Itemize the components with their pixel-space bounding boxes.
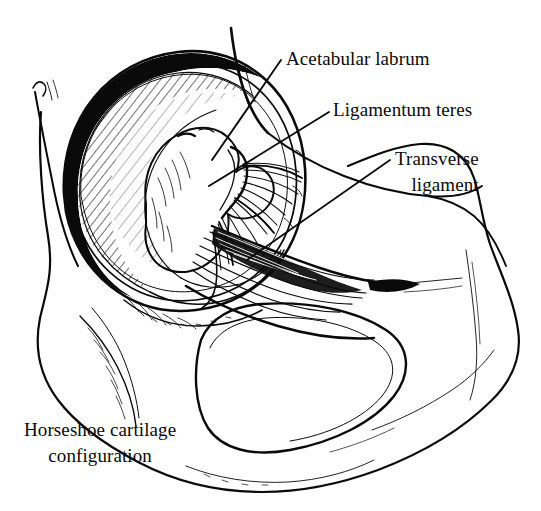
pubic-spur-hatch-1 bbox=[47, 82, 52, 100]
label-acetabular-labrum: Acetabular labrum bbox=[286, 47, 430, 70]
label-horseshoe-cartilage-configuration: Horseshoe cartilageconfiguration bbox=[24, 417, 176, 469]
label-transverse-ligament: Transverseligament bbox=[395, 146, 479, 198]
anatomical-figure: Acetabular labrum Ligamentum teres Trans… bbox=[0, 0, 541, 511]
fossa-shading bbox=[152, 152, 190, 252]
label-ligamentum-teres: Ligamentum teres bbox=[333, 98, 472, 121]
ischial-ridge bbox=[466, 250, 477, 400]
ischial-tuberosity-sweep bbox=[372, 350, 494, 430]
label-horseshoe-line1: Horseshoe cartilage bbox=[24, 419, 176, 440]
transverse-ligament-insertion bbox=[368, 279, 420, 292]
pubic-spur-hatch-2 bbox=[53, 80, 58, 98]
pubic-body-hatching bbox=[88, 328, 125, 419]
superior-ramus-ridge bbox=[231, 28, 268, 133]
ligamentum-teres-stump-back bbox=[220, 150, 235, 210]
labrum-tick-right-2 bbox=[293, 186, 302, 196]
ischial-tuberosity-sweep-2 bbox=[330, 428, 394, 452]
obturator-foramen-outline bbox=[196, 303, 406, 452]
label-transverse-ligament-line2: ligament bbox=[395, 172, 479, 198]
transverse-ligament-band bbox=[212, 228, 362, 293]
label-horseshoe-line2: configuration bbox=[24, 443, 176, 469]
inferior-ramus-line bbox=[186, 460, 374, 482]
label-transverse-ligament-line1: Transverse bbox=[395, 148, 479, 169]
fossa-top-notch bbox=[178, 134, 195, 136]
leader-line-acetabular-labrum bbox=[212, 60, 281, 160]
